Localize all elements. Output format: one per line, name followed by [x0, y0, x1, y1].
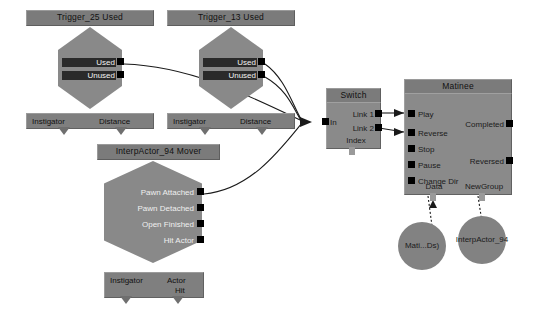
- node-title-trigger25[interactable]: Trigger_25 Used: [26, 10, 154, 26]
- port-label-interpactor-open-finished: Open Finished: [108, 220, 194, 229]
- port-label-trigger25-unused: Unused: [62, 71, 116, 80]
- port-label-interpactor-hit-actor: Hit Actor: [108, 236, 194, 245]
- var-label-interpactor-instigator: Instigator: [110, 275, 143, 286]
- var-connector-switch-index[interactable]: [349, 147, 355, 155]
- port-matinee-completed[interactable]: [506, 120, 513, 127]
- var-connector-matinee-data[interactable]: [430, 193, 436, 201]
- port-label-matinee-reversed: Reversed: [446, 157, 504, 166]
- port-matinee-play[interactable]: [408, 110, 415, 117]
- port-label-matinee-stop: Stop: [418, 145, 478, 154]
- var-label-trigger13-instigator: Instigator: [173, 116, 206, 127]
- port-switch-link1[interactable]: [375, 110, 382, 117]
- var-label-matinee-data: Data: [414, 182, 454, 191]
- var-connector-trigger13-instigator[interactable]: [199, 127, 211, 135]
- port-label-switch-link1: Link 1: [332, 110, 374, 119]
- var-connector-trigger25-distance[interactable]: [115, 127, 127, 135]
- port-label-interpactor-pawn-attached: Pawn Attached: [108, 188, 194, 197]
- port-matinee-pause[interactable]: [408, 161, 415, 168]
- port-label-trigger25-used: Used: [62, 58, 116, 67]
- port-trigger25-used[interactable]: [117, 58, 124, 65]
- port-matinee-stop[interactable]: [408, 145, 415, 152]
- port-switch-link2[interactable]: [375, 124, 382, 131]
- port-switch-in[interactable]: [322, 118, 329, 125]
- port-label-trigger13-used: Used: [203, 58, 257, 67]
- node-body-trigger25[interactable]: [58, 27, 122, 109]
- port-interpactor-hit-actor[interactable]: [197, 236, 204, 243]
- node-body-trigger13[interactable]: [199, 27, 263, 109]
- node-title-interpactor[interactable]: InterpActor_94 Mover: [97, 144, 220, 160]
- var-label-interpactor-hit: Hit: [175, 285, 185, 296]
- var-connector-trigger13-distance[interactable]: [256, 127, 268, 135]
- port-label-matinee-reverse: Reverse: [418, 129, 478, 138]
- port-label-matinee-play: Play: [418, 110, 478, 119]
- port-label-matinee-completed: Completed: [446, 120, 504, 129]
- port-interpactor-pawn-detached[interactable]: [197, 204, 204, 211]
- var-label-switch-index: Index: [334, 136, 378, 145]
- port-interpactor-pawn-attached[interactable]: [197, 188, 204, 195]
- var-connector-matinee-newgroup[interactable]: [479, 193, 485, 201]
- port-label-switch-link2: Link 2: [332, 124, 374, 133]
- var-bar-trigger25[interactable]: Instigator Distance: [26, 113, 154, 129]
- variable-label-matinee-data: Mati...Ds): [394, 241, 450, 251]
- var-bar-trigger13[interactable]: Instigator Distance: [167, 113, 295, 129]
- node-title-trigger13[interactable]: Trigger_13 Used: [167, 10, 295, 26]
- var-label-matinee-newgroup: NewGroup: [456, 182, 512, 191]
- port-matinee-reverse[interactable]: [408, 129, 415, 136]
- var-label-trigger13-distance: Distance: [240, 116, 271, 127]
- var-connector-interpactor-instigator[interactable]: [120, 296, 132, 304]
- port-trigger13-used[interactable]: [258, 58, 265, 65]
- var-connector-trigger25-instigator[interactable]: [58, 127, 70, 135]
- var-bar-interpactor[interactable]: Instigator Actor Hit: [104, 272, 204, 298]
- variable-label-newgroup: InterpActor_94: [443, 235, 521, 245]
- port-label-trigger13-unused: Unused: [203, 71, 257, 80]
- port-label-interpactor-pawn-detached: Pawn Detached: [108, 204, 194, 213]
- var-label-trigger25-instigator: Instigator: [32, 116, 65, 127]
- var-connector-interpactor-actor[interactable]: [172, 296, 184, 304]
- var-label-trigger25-distance: Distance: [99, 116, 130, 127]
- port-interpactor-open-finished[interactable]: [197, 220, 204, 227]
- port-trigger13-unused[interactable]: [258, 71, 265, 78]
- port-matinee-reversed[interactable]: [506, 157, 513, 164]
- sequence-canvas[interactable]: Trigger_25 Used Used Unused Instigator D…: [0, 0, 555, 323]
- port-trigger25-unused[interactable]: [117, 71, 124, 78]
